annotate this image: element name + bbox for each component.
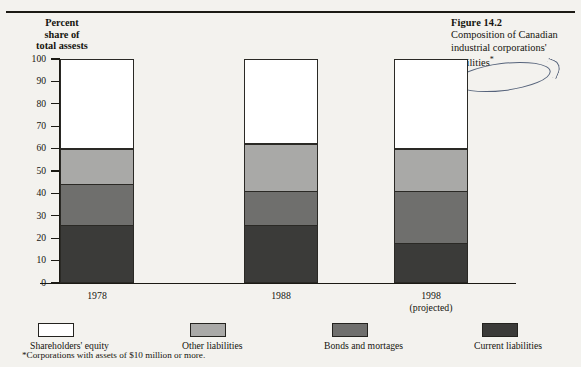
y-tick-mark bbox=[51, 193, 59, 194]
bar-segment-bonds bbox=[244, 191, 318, 225]
y-tick-label: 0 bbox=[0, 278, 46, 288]
y-tick-label: 90 bbox=[0, 76, 46, 86]
x-axis-label-year: 1988 bbox=[271, 290, 291, 301]
plot-area: 1009080706050403020100 197819881998(proj… bbox=[0, 0, 581, 367]
bar-segment-current bbox=[244, 225, 318, 283]
legend-label: Current liabilities bbox=[474, 341, 581, 351]
y-tick-mark bbox=[51, 282, 59, 283]
bar-segment-other bbox=[394, 149, 468, 192]
y-tick-mark bbox=[51, 148, 59, 149]
y-tick-label: 30 bbox=[0, 211, 46, 221]
y-tick-label: 60 bbox=[0, 143, 46, 153]
chart-legend: Shareholders' equityOther liabilitiesBon… bbox=[30, 323, 560, 353]
legend-swatch bbox=[482, 323, 518, 337]
y-tick-label: 10 bbox=[0, 255, 46, 265]
legend-label: Bonds and mortages bbox=[324, 341, 454, 351]
y-tick-mark bbox=[51, 103, 59, 104]
y-tick-label: 50 bbox=[0, 166, 46, 176]
bar-segment-current bbox=[60, 225, 134, 283]
x-axis-label-sub: (projected) bbox=[356, 302, 506, 314]
y-tick-label: 100 bbox=[0, 54, 46, 64]
y-tick-mark bbox=[51, 81, 59, 82]
legend-swatch bbox=[38, 323, 74, 337]
y-tick-label: 80 bbox=[0, 99, 46, 109]
y-tick-label: 40 bbox=[0, 188, 46, 198]
y-tick-mark bbox=[51, 215, 59, 216]
footnote: *Corporations with assets of $10 million… bbox=[22, 350, 205, 360]
stacked-bar bbox=[244, 59, 318, 283]
bar-segment-equity bbox=[60, 59, 134, 149]
bar-segment-equity bbox=[394, 59, 468, 149]
x-axis-label: 1988 bbox=[206, 290, 356, 302]
legend-swatch bbox=[332, 323, 368, 337]
y-tick-label: 20 bbox=[0, 233, 46, 243]
bar-segment-equity bbox=[244, 59, 318, 144]
bar-segment-bonds bbox=[60, 184, 134, 224]
x-axis-line bbox=[40, 283, 516, 284]
y-tick-label: 70 bbox=[0, 121, 46, 131]
y-tick-mark bbox=[51, 126, 59, 127]
x-axis-label: 1998(projected) bbox=[356, 290, 506, 313]
y-tick-mark bbox=[51, 260, 59, 261]
legend-swatch bbox=[190, 323, 226, 337]
y-tick-mark bbox=[51, 170, 59, 171]
x-axis-label-year: 1978 bbox=[87, 290, 107, 301]
y-tick-mark bbox=[51, 58, 59, 59]
bar-segment-other bbox=[244, 144, 318, 191]
x-axis-label-year: 1998 bbox=[421, 290, 441, 301]
bar-segment-other bbox=[60, 149, 134, 185]
stacked-bar bbox=[60, 59, 134, 283]
stacked-bar bbox=[394, 59, 468, 283]
figure-page: Figure 14.2 Composition of Canadian indu… bbox=[0, 0, 581, 367]
x-axis-label: 1978 bbox=[22, 290, 172, 302]
y-tick-mark bbox=[51, 238, 59, 239]
bar-segment-current bbox=[394, 243, 468, 283]
bar-segment-bonds bbox=[394, 191, 468, 243]
